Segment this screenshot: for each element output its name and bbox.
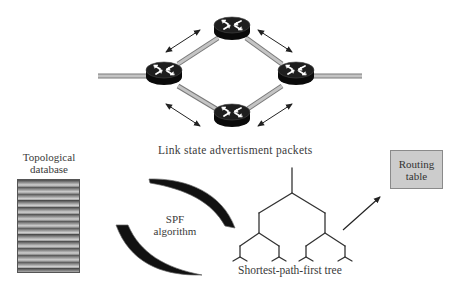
spf-tree-caption: Shortest-path-first tree bbox=[238, 264, 342, 276]
topological-database-label-line1: Topological bbox=[13, 151, 85, 163]
topological-database-label: Topological database bbox=[13, 151, 85, 175]
lsa-caption: Link state advertisment packets bbox=[158, 144, 313, 156]
spf-algorithm-label-line1: SPF bbox=[145, 213, 205, 225]
routing-table-box: Routing table bbox=[390, 150, 443, 189]
topological-database-label-line2: database bbox=[13, 163, 85, 175]
spf-algorithm-label-line2: algorithm bbox=[145, 225, 205, 237]
router-icon-top bbox=[214, 17, 250, 40]
spf-algorithm-label: SPF algorithm bbox=[145, 213, 205, 237]
router-icon-right bbox=[278, 62, 314, 85]
router-icon-bottom bbox=[214, 104, 250, 127]
spf-tree-icon bbox=[233, 168, 352, 261]
to-routing-table-arrow bbox=[343, 197, 380, 230]
router-icon-left bbox=[146, 62, 182, 85]
routing-table-label-line1: Routing bbox=[399, 158, 434, 170]
topological-database-icon bbox=[17, 179, 80, 273]
routing-table-label-line2: table bbox=[406, 170, 427, 182]
network-links bbox=[98, 38, 362, 110]
link-state-routing-diagram: Link state advertisment packets Topologi… bbox=[0, 0, 465, 291]
